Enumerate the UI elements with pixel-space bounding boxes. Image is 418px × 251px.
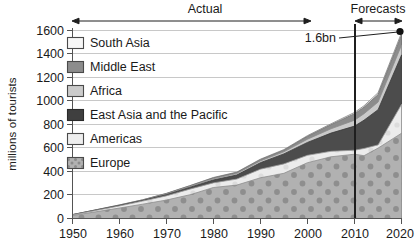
tourism-area-chart: 1600 1400 1200 1000 800 600 400 200 0 19… xyxy=(0,0,418,251)
actual-label: Actual xyxy=(188,2,223,16)
y-tick-label: 400 xyxy=(43,165,64,179)
callout-leader-line xyxy=(339,32,398,38)
y-tick-label: 800 xyxy=(43,118,64,132)
legend-label: South Asia xyxy=(90,36,150,50)
legend-item-middle-east[interactable]: Middle East xyxy=(68,60,156,74)
legend-label: Americas xyxy=(90,132,142,146)
legend: South Asia Middle East Africa East Asia … xyxy=(68,36,228,170)
y-tick-label: 1000 xyxy=(36,94,64,108)
y-tick-label: 1400 xyxy=(36,47,64,61)
y-tick-label: 600 xyxy=(43,141,64,155)
forecast-span-arrow xyxy=(355,18,402,24)
x-tick-label: 1980 xyxy=(200,227,228,241)
x-tick-label: 2020 xyxy=(386,227,414,241)
x-tick-labels: 1950 1960 1970 1980 1990 2000 2010 2020 xyxy=(59,227,414,241)
y-tick-marks xyxy=(67,30,72,218)
legend-item-americas[interactable]: Americas xyxy=(68,132,143,146)
legend-item-east-asia-pacific[interactable]: East Asia and the Pacific xyxy=(68,108,228,122)
x-tick-label: 1990 xyxy=(247,227,275,241)
y-axis-title: millions of tourists xyxy=(6,77,18,171)
europe-swatch xyxy=(68,158,84,169)
x-tick-label: 1950 xyxy=(59,227,87,241)
x-tick-label: 1960 xyxy=(106,227,134,241)
endpoint-dot xyxy=(396,28,403,35)
legend-item-europe[interactable]: Europe xyxy=(68,156,131,170)
endpoint-callout-label: 1.6bn xyxy=(305,31,336,45)
africa-swatch xyxy=(68,86,84,97)
south-asia-swatch xyxy=(68,38,84,49)
legend-label: Middle East xyxy=(90,60,156,74)
middle-east-swatch xyxy=(68,62,84,73)
y-tick-label: 0 xyxy=(57,212,64,226)
y-tick-labels: 1600 1400 1200 1000 800 600 400 200 0 xyxy=(36,24,64,226)
actual-span-arrow xyxy=(72,18,311,24)
americas-swatch xyxy=(68,134,84,145)
legend-label: East Asia and the Pacific xyxy=(90,108,228,122)
y-tick-label: 200 xyxy=(43,188,64,202)
x-tick-label: 2010 xyxy=(341,227,369,241)
y-tick-label: 1600 xyxy=(36,24,64,38)
east-asia-swatch xyxy=(68,110,84,121)
x-tick-marks xyxy=(73,219,402,224)
y-tick-label: 1200 xyxy=(36,71,64,85)
chart-canvas: 1600 1400 1200 1000 800 600 400 200 0 19… xyxy=(0,0,418,251)
legend-label: Africa xyxy=(90,84,122,98)
x-tick-label: 2000 xyxy=(294,227,322,241)
legend-label: Europe xyxy=(90,156,130,170)
x-tick-label: 1970 xyxy=(153,227,181,241)
legend-item-south-asia[interactable]: South Asia xyxy=(68,36,150,50)
legend-item-africa[interactable]: Africa xyxy=(68,84,123,98)
forecasts-label: Forecasts xyxy=(351,2,406,16)
